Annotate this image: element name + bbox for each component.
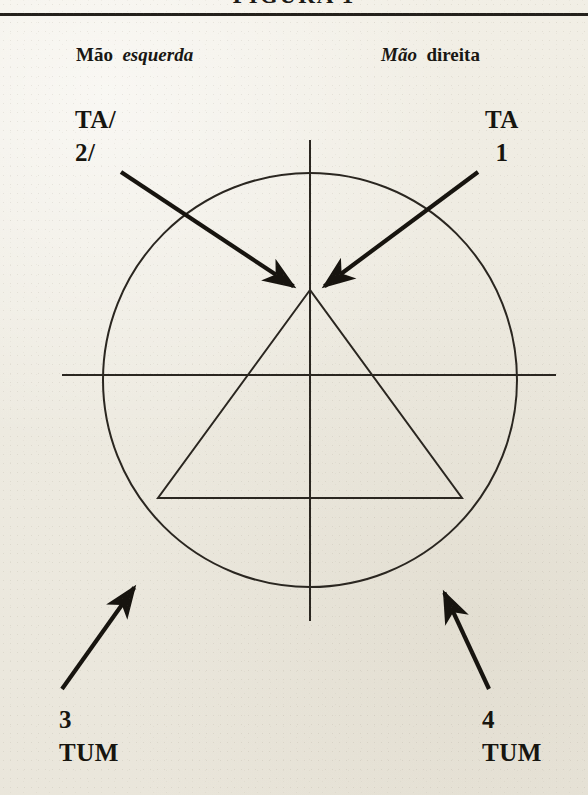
scanned-page: FIGURA 1 Mão esquerda Mão direita TA/ 2/…: [0, 0, 588, 795]
geometric-diagram: [0, 0, 588, 795]
arrow-ta-1: [324, 172, 478, 286]
arrow-ta-2: [121, 172, 293, 286]
arrow-tum-4: [444, 593, 489, 689]
arrow-tum-3: [62, 587, 134, 689]
